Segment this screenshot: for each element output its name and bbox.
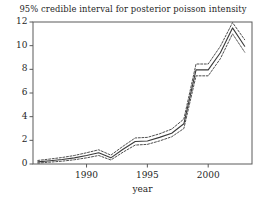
data-series — [38, 23, 245, 163]
y-tick-label: 2 — [6, 134, 28, 144]
axis-frame — [33, 22, 252, 164]
x-axis-title: year — [123, 184, 163, 194]
series-line-0 — [38, 28, 245, 162]
y-tick-label: 4 — [6, 111, 28, 121]
chart-container: 95% credible interval for posterior pois… — [0, 0, 266, 205]
axis-ticks — [30, 22, 209, 168]
x-tick-label: 2000 — [188, 170, 228, 180]
x-tick-label: 1990 — [67, 170, 107, 180]
y-tick-label: 12 — [6, 16, 28, 26]
y-tick-label: 8 — [6, 63, 28, 73]
series-line-1 — [38, 23, 245, 161]
y-tick-label: 10 — [6, 40, 28, 50]
y-tick-label: 6 — [6, 87, 28, 97]
y-tick-label: 0 — [6, 158, 28, 168]
x-tick-label: 1995 — [127, 170, 167, 180]
series-line-2 — [38, 34, 245, 163]
